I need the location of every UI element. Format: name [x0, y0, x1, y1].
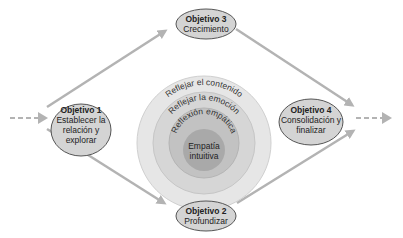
- objetivo-2-desc: Profundizar: [184, 216, 228, 226]
- outgoing-dashed-arrow: [356, 112, 392, 124]
- objetivo-1-node: Objetivo 1 Establecer la relación y expl…: [51, 104, 111, 156]
- objetivo-1-title: Objetivo 1: [60, 105, 101, 115]
- objetivo-1-line-1: Establecer la: [56, 115, 105, 125]
- objetivo-1-line-3: explorar: [66, 135, 97, 145]
- objetivo-3-title: Objetivo 3: [185, 14, 226, 24]
- core-label-line-2: intuitiva: [190, 151, 219, 161]
- concentric-empathy-rings: Reflejar el contenido Reflejar la emoció…: [137, 76, 271, 210]
- objetivo-4-node: Objetivo 4 Consolidación y finalizar: [279, 99, 343, 145]
- arrow-objetivo-3-to-end: [236, 29, 352, 105]
- objetivo-2-title: Objetivo 2: [185, 206, 226, 216]
- objetivo-3-node: Objetivo 3 Crecimiento: [176, 9, 236, 39]
- objetivo-4-line-2: finalizar: [296, 125, 325, 135]
- objetivo-4-title: Objetivo 4: [290, 105, 331, 115]
- empathy-objectives-diagram: Reflejar el contenido Reflejar la emoció…: [0, 0, 403, 238]
- incoming-dashed-arrow: [10, 112, 48, 124]
- objetivo-4-line-1: Consolidación y: [281, 115, 342, 125]
- objetivo-1-line-2: relación y: [63, 125, 100, 135]
- objetivo-2-node: Objetivo 2 Profundizar: [176, 201, 236, 231]
- arrow-start-to-objetivo-3: [47, 31, 165, 107]
- core-label-line-1: Empatía: [188, 141, 220, 151]
- objetivo-3-desc: Crecimiento: [183, 24, 229, 34]
